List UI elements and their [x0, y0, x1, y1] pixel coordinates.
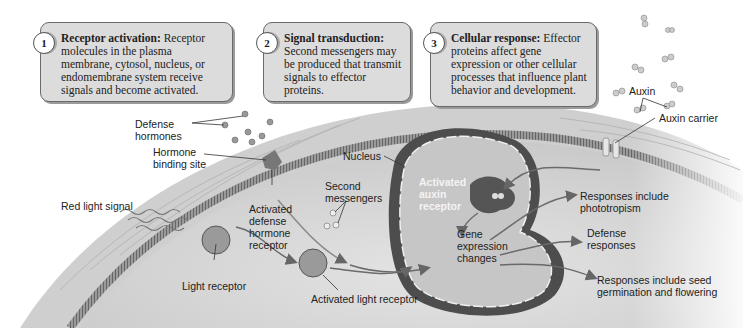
callout-text: Second messengers may be produced that t…: [284, 45, 401, 96]
label-responses-seed-germination: Responses include seed germination and f…: [597, 274, 742, 298]
label-gene-expression-changes: Gene expression changes: [457, 228, 512, 264]
step-number-badge: 3: [423, 32, 445, 54]
step-number-badge: 2: [256, 32, 278, 54]
signal-transduction-diagram: 1 Receptor activation: Receptor molecule…: [0, 0, 743, 328]
callout-receptor-activation: 1 Receptor activation: Receptor molecule…: [40, 22, 233, 102]
label-auxin-carrier: Auxin carrier: [659, 112, 718, 124]
auxin-carrier: [603, 138, 609, 156]
label-nucleus: Nucleus: [343, 150, 381, 162]
label-responses-phototropism: Responses include phototropism: [580, 190, 700, 214]
callout-signal-transduction: 2 Signal transduction:Second messengers …: [263, 22, 411, 102]
callout-title: Receptor activation:: [61, 32, 161, 44]
label-defense-responses: Defense responses: [587, 227, 647, 251]
label-red-light-signal: Red light signal: [61, 200, 133, 212]
callout-title: Cellular response:: [451, 32, 540, 44]
label-activated-auxin-receptor: Activated auxin receptor: [419, 176, 474, 212]
callout-cellular-response: 3 Cellular response: Effector proteins a…: [430, 22, 597, 107]
label-activated-defense-hormone-receptor: Activated defense hormone receptor: [249, 203, 304, 251]
step-number-badge: 1: [33, 32, 55, 54]
light-receptor-shape: [202, 226, 230, 254]
label-second-messengers: Second messengers: [325, 180, 390, 204]
label-light-receptor: Light receptor: [182, 280, 246, 292]
activated-light-receptor-shape: [299, 249, 327, 277]
label-hormone-binding-site: Hormone binding site: [153, 146, 223, 170]
callout-title: Signal transduction:: [284, 32, 384, 44]
label-auxin: Auxin: [629, 85, 655, 97]
label-activated-light-receptor: Activated light receptor: [311, 293, 418, 305]
label-defense-hormones: Defense hormones: [135, 118, 195, 142]
